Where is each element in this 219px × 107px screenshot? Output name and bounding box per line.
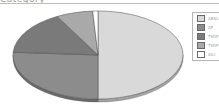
legend-item: TSDP (197, 33, 218, 40)
legend-item: AILI (197, 51, 215, 58)
pie-slice-ap (13, 52, 98, 99)
legend-item: ABSLA (197, 15, 219, 22)
legend-swatch (197, 15, 205, 22)
legend-item: AP (197, 24, 213, 31)
pie-slice-absla (98, 11, 183, 99)
legend-label: AILI (208, 52, 215, 57)
legend-swatch (197, 24, 205, 31)
legend-label: TSDP (208, 43, 218, 48)
pie-chart (0, 0, 219, 107)
legend-swatch (197, 33, 205, 40)
legend-label: ABSLA (208, 16, 219, 21)
legend-swatch (197, 42, 205, 49)
legend-label: AP (208, 25, 213, 30)
legend-swatch (197, 51, 205, 58)
chart-legend: ABSLA AP TSDP TSDP AILI (192, 12, 219, 61)
legend-item: TSDP (197, 42, 218, 49)
legend-label: TSDP (208, 34, 218, 39)
